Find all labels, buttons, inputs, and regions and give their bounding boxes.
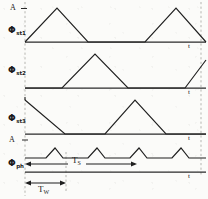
phase-label-ph: Φph [8,159,24,168]
phase-label-st1-sub: st1 [16,30,26,36]
axis-time-label-4: t [188,173,190,180]
trace-phi-st3 [25,97,206,134]
waveform-phi-ph [25,148,206,158]
period-short-glyph: T [38,184,44,194]
waveform-phi-st2 [25,54,206,88]
guide-lines [25,2,201,196]
phase-label-st3-sub: st3 [16,118,26,124]
amplitude-label-ripple: A [9,136,15,144]
ts-arrow-head-left [25,162,31,167]
phase-label-st2-sub: st2 [16,70,26,76]
axis-time-label-1: t [188,43,190,50]
phase-label-st3-glyph: Φ [8,113,16,123]
ts-arrow-head-right [131,162,137,167]
phase-label-ph-glyph: Φ [8,158,16,168]
period-short-label: TW [38,185,49,194]
dimension-period-long [25,160,137,169]
timing-diagram-figure: A A Φst1 Φst2 Φst3 Φph t t t t TS TW [0,0,208,199]
phase-label-st1: Φst1 [8,26,25,35]
tw-arrow-head-left [25,181,31,186]
period-long-label: TS [72,156,81,165]
axis-time-label-2: t [188,89,190,96]
trace-phi-ph [22,140,206,172]
phase-label-st2-glyph: Φ [8,65,16,75]
period-long-glyph: T [72,155,78,165]
axis-time-label-3: t [188,135,190,142]
waveform-phi-st3 [25,100,206,134]
period-short-sub: W [44,189,50,195]
phase-label-st1-glyph: Φ [8,25,16,35]
phase-label-ph-sub: ph [16,163,24,169]
tw-arrow-head-right [60,181,66,186]
amplitude-label-top: A [10,4,16,12]
period-long-sub: S [78,160,81,166]
waveform-phi-st1 [25,8,206,42]
waveform-canvas [0,0,208,199]
trace-phi-st2 [25,54,206,88]
phase-label-st2: Φst2 [8,66,25,75]
phase-label-st3: Φst3 [8,114,25,123]
trace-phi-st1 [21,8,206,42]
